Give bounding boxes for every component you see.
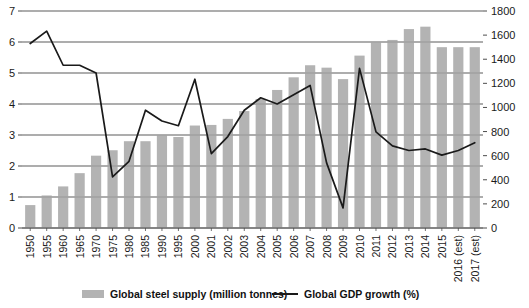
bar bbox=[124, 141, 134, 228]
bar bbox=[453, 47, 463, 228]
right-tick-label: 200 bbox=[491, 198, 509, 210]
bar bbox=[437, 47, 447, 228]
bar bbox=[25, 205, 35, 228]
x-tick-label: 1955 bbox=[41, 235, 53, 259]
bar bbox=[239, 111, 249, 228]
bar bbox=[91, 156, 101, 228]
left-tick-label: 2 bbox=[9, 160, 15, 172]
right-tick-label: 1400 bbox=[491, 53, 515, 65]
bar bbox=[289, 77, 299, 228]
bar bbox=[470, 47, 480, 228]
right-tick-label: 1600 bbox=[491, 29, 515, 41]
bar bbox=[404, 29, 414, 228]
right-axis: 020040060080010001200140016001800 bbox=[483, 5, 515, 234]
right-tick-label: 600 bbox=[491, 150, 509, 162]
right-tick-label: 800 bbox=[491, 126, 509, 138]
right-tick-label: 1000 bbox=[491, 101, 515, 113]
right-tick-label: 1200 bbox=[491, 77, 515, 89]
bar bbox=[420, 27, 430, 228]
x-tick-label: 1970 bbox=[90, 235, 102, 259]
x-tick-label: 1960 bbox=[57, 235, 69, 259]
bar bbox=[140, 141, 150, 228]
x-tick-label: 2000 bbox=[189, 235, 201, 259]
bar bbox=[107, 150, 117, 228]
bar bbox=[387, 40, 397, 228]
x-tick-label: 1975 bbox=[107, 235, 119, 259]
x-tick-label: 2007 bbox=[304, 235, 316, 259]
bar bbox=[272, 90, 282, 228]
x-tick-label: 2014 bbox=[419, 235, 431, 259]
x-tick-label: 1950 bbox=[24, 235, 36, 259]
x-tick-label: 2008 bbox=[321, 235, 333, 259]
legend-swatch-bar bbox=[82, 290, 104, 298]
x-tick-label: 2012 bbox=[386, 235, 398, 259]
bar bbox=[173, 137, 183, 228]
x-tick-label: 1980 bbox=[123, 235, 135, 259]
x-tick-label: 2005 bbox=[271, 235, 283, 259]
x-tick-label: 1965 bbox=[74, 235, 86, 259]
bar bbox=[190, 126, 200, 228]
left-tick-label: 4 bbox=[9, 98, 15, 110]
left-tick-label: 5 bbox=[9, 67, 15, 79]
legend-label-bar: Global steel supply (million tonnes) bbox=[110, 288, 287, 300]
x-tick-label: 2010 bbox=[354, 235, 366, 259]
right-tick-label: 0 bbox=[491, 222, 497, 234]
combo-chart: 0123456702004006008001000120014001600180… bbox=[0, 0, 529, 308]
bar bbox=[75, 173, 85, 228]
left-tick-label: 0 bbox=[9, 222, 15, 234]
x-tick-label: 1990 bbox=[156, 235, 168, 259]
bar bbox=[42, 195, 52, 228]
x-tick-label: 2001 bbox=[205, 235, 217, 259]
x-tick-label: 2002 bbox=[222, 235, 234, 259]
x-tick-label: 2004 bbox=[255, 235, 267, 259]
bar bbox=[157, 135, 167, 228]
x-tick-label: 2011 bbox=[370, 235, 382, 258]
x-tick-label: 2009 bbox=[337, 235, 349, 259]
x-tick-label: 2013 bbox=[403, 235, 415, 259]
x-axis: 1950195519601965197019751980198519901995… bbox=[24, 228, 481, 282]
right-tick-label: 1800 bbox=[491, 5, 515, 17]
legend: Global steel supply (million tonnes)Glob… bbox=[82, 288, 419, 300]
left-tick-label: 3 bbox=[9, 129, 15, 141]
left-tick-label: 1 bbox=[9, 191, 15, 203]
bar-series bbox=[25, 27, 480, 228]
left-tick-label: 6 bbox=[9, 36, 15, 48]
left-tick-label: 7 bbox=[9, 5, 15, 17]
bar bbox=[256, 99, 266, 228]
x-tick-label: 2016 (est) bbox=[452, 235, 464, 282]
x-tick-label: 1995 bbox=[172, 235, 184, 259]
x-tick-label: 2017 (est) bbox=[469, 235, 481, 282]
chart-container: 0123456702004006008001000120014001600180… bbox=[0, 0, 529, 308]
right-tick-label: 400 bbox=[491, 174, 509, 186]
bar bbox=[305, 65, 315, 228]
bar bbox=[58, 186, 68, 228]
left-axis: 01234567 bbox=[9, 5, 22, 234]
x-tick-label: 1985 bbox=[139, 235, 151, 259]
x-tick-label: 2015 bbox=[436, 235, 448, 259]
legend-label-line: Global GDP growth (%) bbox=[304, 288, 419, 300]
x-tick-label: 2006 bbox=[288, 235, 300, 259]
x-tick-label: 2003 bbox=[238, 235, 250, 259]
